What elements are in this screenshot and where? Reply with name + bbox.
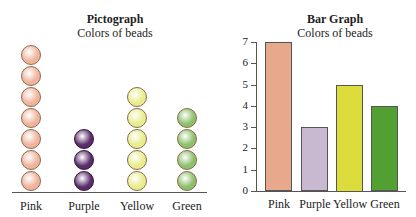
y-tick-label: 4 <box>236 99 248 111</box>
bead-icon <box>74 150 94 170</box>
bar-pink <box>265 42 292 191</box>
bead-icon <box>21 87 41 107</box>
y-tick <box>251 191 257 192</box>
bar-graph-subtitle: Colors of beads <box>270 26 400 41</box>
bead-icon <box>21 129 41 149</box>
bead-icon <box>21 66 41 86</box>
bar-yellow <box>336 85 363 192</box>
pictograph-label-purple: Purple <box>59 199 109 214</box>
bead-icon <box>127 129 147 149</box>
y-tick-label: 5 <box>236 78 248 90</box>
y-tick <box>251 106 257 107</box>
pictograph-label-green: Green <box>162 199 212 214</box>
y-tick-label: 1 <box>236 163 248 175</box>
y-tick <box>251 170 257 171</box>
bead-icon <box>177 108 197 128</box>
y-axis <box>256 42 257 192</box>
y-tick <box>251 63 257 64</box>
pictograph-panel: Pictograph Colors of beads Pink Purple Y… <box>0 0 210 217</box>
bead-icon <box>74 171 94 191</box>
bead-icon <box>21 45 41 65</box>
bar-label-pink: Pink <box>254 197 304 212</box>
bead-icon <box>127 171 147 191</box>
bar-graph-title: Bar Graph <box>270 12 400 27</box>
pictograph-label-yellow: Yellow <box>112 199 162 214</box>
y-tick <box>251 85 257 86</box>
bar-green <box>371 106 398 191</box>
y-tick-label: 3 <box>236 120 248 132</box>
x-axis <box>256 191 406 192</box>
bead-icon <box>127 150 147 170</box>
pictograph-title: Pictograph <box>50 12 180 27</box>
y-tick <box>251 42 257 43</box>
bead-icon <box>21 171 41 191</box>
y-tick-label: 0 <box>236 184 248 196</box>
bead-icon <box>177 129 197 149</box>
bead-icon <box>74 129 94 149</box>
bar-label-purple: Purple <box>290 197 340 212</box>
bead-icon <box>127 87 147 107</box>
bar-label-green: Green <box>360 197 410 212</box>
y-tick-label: 6 <box>236 56 248 68</box>
bead-icon <box>21 108 41 128</box>
y-tick <box>251 127 257 128</box>
bead-icon <box>177 171 197 191</box>
pictograph-baseline <box>12 192 207 193</box>
bar-label-yellow: Yellow <box>325 197 375 212</box>
bead-icon <box>177 150 197 170</box>
pictograph-label-pink: Pink <box>6 199 56 214</box>
bar-purple <box>301 127 328 191</box>
bead-icon <box>127 108 147 128</box>
y-tick <box>251 148 257 149</box>
pictograph-subtitle: Colors of beads <box>50 26 180 41</box>
bead-icon <box>21 150 41 170</box>
y-tick-label: 7 <box>236 35 248 47</box>
y-tick-label: 2 <box>236 141 248 153</box>
